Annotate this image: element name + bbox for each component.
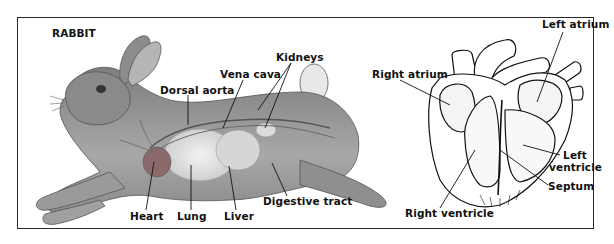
label-kidneys: Kidneys xyxy=(276,51,324,63)
rabbit-liver-organ xyxy=(216,130,260,170)
label-dorsal-aorta: Dorsal aorta xyxy=(160,84,234,96)
label-septum: Septum xyxy=(548,180,594,192)
label-heart: Heart xyxy=(130,210,164,222)
label-vena-cava: Vena cava xyxy=(220,68,281,80)
label-left-ventricle-line1: Left xyxy=(549,149,589,161)
figure-title: RABBIT xyxy=(52,27,96,39)
label-right-ventricle: Right ventricle xyxy=(405,207,494,219)
label-liver: Liver xyxy=(224,210,254,222)
label-lung: Lung xyxy=(177,210,207,222)
label-left-ventricle: Left ventricle xyxy=(549,149,589,173)
label-digestive-tract: Digestive tract xyxy=(263,195,352,207)
label-right-atrium: Right atrium xyxy=(372,68,448,80)
label-left-ventricle-line2: ventricle xyxy=(549,161,589,173)
rabbit-eye xyxy=(96,85,106,93)
rabbit-head xyxy=(65,72,130,125)
rabbit-heart-organ xyxy=(143,147,171,177)
label-left-atrium: Left atrium xyxy=(542,18,609,30)
